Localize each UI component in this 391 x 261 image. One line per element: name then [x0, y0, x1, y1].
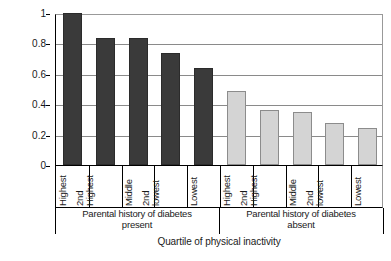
group-heading-line2: present [55, 219, 219, 230]
y-tick-label: 0.4 [32, 100, 46, 110]
group-heading: Parental history of diabetespresent [55, 208, 219, 230]
bar [325, 123, 344, 165]
y-tick-mark [46, 14, 50, 15]
y-tick-mark [46, 105, 50, 106]
category-label-line2: Highest [85, 175, 95, 206]
category-label-line1: Lowest [352, 177, 363, 206]
category-label-line1: Highest [57, 175, 68, 206]
y-tick-label: 0.8 [32, 39, 46, 49]
y-tick-mark [46, 44, 50, 45]
category-label-line2: lowest [151, 180, 161, 206]
y-tick-mark [46, 136, 50, 137]
category-label-line2: Highest [249, 175, 259, 206]
category-label: 2ndlowest [141, 180, 161, 206]
group-divider [383, 208, 384, 234]
bar [293, 112, 312, 165]
bar [358, 128, 377, 165]
category-label-line1: Lowest [188, 177, 199, 206]
bar-chart: Risk of Type 2 Diabetes 00.20.40.60.81 H… [0, 0, 391, 261]
category-label: Middle [288, 179, 298, 206]
y-axis-tick-labels: 00.20.40.60.81 [18, 14, 50, 166]
y-tick-mark [46, 75, 50, 76]
group-heading-band: Parental history of diabetespresentParen… [55, 208, 383, 236]
y-tick-label: 0.6 [32, 70, 46, 80]
category-label: Lowest [353, 177, 363, 206]
category-label: Highest [222, 175, 232, 206]
group-heading-line1: Parental history of diabetes [219, 208, 383, 219]
category-label: 2ndHighest [75, 175, 95, 206]
bars-layer [56, 15, 382, 165]
bar [161, 53, 180, 165]
group-heading-line2: absent [219, 219, 383, 230]
category-label-band: Highest2ndHighestMiddle2ndlowestLowestHi… [55, 166, 383, 208]
bar [227, 91, 246, 165]
category-label-line1: Highest [221, 175, 232, 206]
category-label: 2ndHighest [239, 175, 259, 206]
plot-area [55, 14, 383, 166]
y-tick-mark [46, 166, 50, 167]
bar [96, 38, 115, 165]
category-label: Lowest [189, 177, 199, 206]
x-axis-title: Quartile of physical inactivity [55, 236, 383, 248]
category-label-line1: Middle [123, 179, 134, 206]
bar [194, 68, 213, 165]
y-tick-label: 0.2 [32, 131, 46, 141]
category-label: 2ndlowest [305, 180, 325, 206]
bar [260, 110, 279, 165]
category-label: Middle [124, 179, 134, 206]
bar [129, 38, 148, 165]
category-label: Highest [58, 175, 68, 206]
category-label-line1: Middle [287, 179, 298, 206]
group-heading-line1: Parental history of diabetes [55, 208, 219, 219]
category-label-line2: lowest [315, 180, 325, 206]
bar [63, 13, 82, 165]
group-heading: Parental history of diabetesabsent [219, 208, 383, 230]
